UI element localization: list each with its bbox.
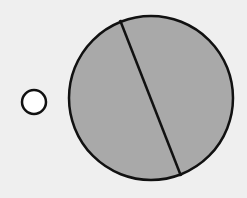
diagram-canvas: [0, 0, 247, 198]
small-open-circle: [22, 90, 46, 114]
